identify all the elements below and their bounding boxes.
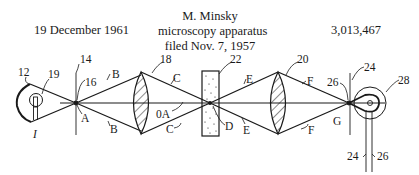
- label-26-lead: 26: [377, 150, 389, 162]
- label-19: 19: [48, 68, 60, 80]
- label-i: I: [32, 128, 38, 140]
- label-26-pinhole: 26: [327, 76, 339, 88]
- ray-c-bottom: [141, 103, 210, 134]
- objective-lens-18: [134, 72, 149, 134]
- label-b-top: B: [112, 68, 120, 80]
- label-24-lead: 24: [347, 150, 359, 162]
- label-c-bottom: C: [166, 123, 174, 135]
- label-f-bottom: F: [308, 124, 314, 136]
- label-d: D: [225, 120, 233, 132]
- light-bulb-icon: [30, 94, 43, 121]
- label-12: 12: [18, 66, 30, 78]
- label-f-top: F: [307, 75, 313, 87]
- label-e-top: E: [246, 73, 253, 85]
- label-28: 28: [398, 74, 410, 86]
- collector-lens-20: [271, 72, 286, 134]
- label-g: G: [333, 115, 341, 127]
- label-18: 18: [160, 53, 172, 65]
- label-0a: 0A: [156, 108, 171, 120]
- label-20: 20: [297, 53, 309, 65]
- confocal-microscope-diagram: 12 19 I 14 16 A B B 18 C C 0A 22 D E E 2…: [0, 0, 419, 175]
- ray-e-top: [210, 72, 278, 103]
- label-a: A: [81, 112, 90, 124]
- label-b-bottom: B: [110, 123, 118, 135]
- label-22: 22: [230, 53, 242, 65]
- label-24-plate: 24: [364, 61, 376, 73]
- label-c-top: C: [173, 72, 181, 84]
- label-e-bottom: E: [243, 124, 250, 136]
- lamp-reflector: [17, 84, 31, 122]
- label-16: 16: [85, 76, 97, 88]
- label-14: 14: [80, 53, 92, 65]
